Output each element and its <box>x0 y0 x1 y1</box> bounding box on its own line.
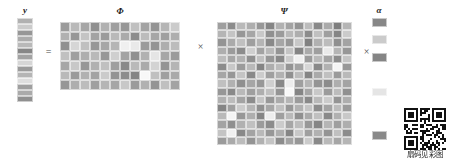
matrix-cell <box>100 41 110 51</box>
matrix-cell <box>342 129 352 137</box>
matrix-cell <box>313 104 323 112</box>
matrix-cell <box>372 105 387 114</box>
matrix-cell <box>60 32 70 42</box>
matrix-cell <box>70 71 80 81</box>
matrix-cell <box>227 79 237 87</box>
matrix-cell <box>275 137 285 145</box>
matrix-cell <box>140 32 150 42</box>
matrix-cell <box>372 79 387 88</box>
matrix-cell <box>120 61 130 71</box>
matrix-cell <box>294 129 304 137</box>
matrix-cell <box>217 79 227 87</box>
matrix-cell <box>120 32 130 42</box>
matrix-cell <box>227 55 237 63</box>
matrix-cell <box>17 96 33 102</box>
matrix-cell <box>256 79 266 87</box>
matrix-cell <box>313 112 323 120</box>
matrix-cell <box>170 22 180 32</box>
matrix-cell <box>275 22 285 30</box>
matrix-cell <box>323 96 333 104</box>
matrix-cell <box>285 112 295 120</box>
matrix-cell <box>217 88 227 96</box>
matrix-cell <box>313 129 323 137</box>
matrix-cell <box>90 61 100 71</box>
matrix-cell <box>246 112 256 120</box>
matrix-cell <box>372 131 387 140</box>
matrix-cell <box>227 88 237 96</box>
matrix-cell <box>294 55 304 63</box>
matrix-cell <box>342 104 352 112</box>
matrix-cell <box>275 112 285 120</box>
matrix-cell <box>323 79 333 87</box>
matrix-phi <box>60 22 180 90</box>
matrix-cell <box>256 112 266 120</box>
matrix-cell <box>323 137 333 145</box>
matrix-cell <box>304 79 314 87</box>
matrix-cell <box>170 41 180 51</box>
matrix-cell <box>342 22 352 30</box>
matrix-cell <box>333 96 343 104</box>
matrix-cell <box>170 51 180 61</box>
matrix-cell <box>294 79 304 87</box>
matrix-cell <box>217 137 227 145</box>
matrix-cell <box>342 63 352 71</box>
matrix-cell <box>285 38 295 46</box>
matrix-cell <box>313 137 323 145</box>
matrix-cell <box>275 129 285 137</box>
matrix-cell <box>342 96 352 104</box>
matrix-cell <box>372 114 387 123</box>
matrix-cell <box>130 51 140 61</box>
qr-code-image[interactable] <box>404 108 446 150</box>
matrix-cell <box>100 61 110 71</box>
matrix-cell <box>70 32 80 42</box>
matrix-cell <box>100 80 110 90</box>
matrix-cell <box>333 79 343 87</box>
matrix-cell <box>140 22 150 32</box>
matrix-cell <box>90 51 100 61</box>
matrix-cell <box>333 30 343 38</box>
matrix-cell <box>80 61 90 71</box>
matrix-cell <box>304 63 314 71</box>
matrix-cell <box>160 71 170 81</box>
matrix-cell <box>246 129 256 137</box>
matrix-cell <box>217 120 227 128</box>
qr-code-block[interactable]: 扇码见彩图 <box>400 108 450 160</box>
matrix-cell <box>256 88 266 96</box>
matrix-cell <box>256 38 266 46</box>
matrix-cell <box>285 79 295 87</box>
matrix-cell <box>285 129 295 137</box>
matrix-cell <box>217 112 227 120</box>
matrix-cell <box>110 71 120 81</box>
matrix-cell <box>304 38 314 46</box>
matrix-cell <box>275 88 285 96</box>
matrix-cell <box>70 41 80 51</box>
matrix-cell <box>265 71 275 79</box>
matrix-cell <box>246 71 256 79</box>
matrix-cell <box>227 96 237 104</box>
matrix-cell <box>313 79 323 87</box>
matrix-cell <box>90 41 100 51</box>
matrix-cell <box>304 112 314 120</box>
matrix-cell <box>294 120 304 128</box>
matrix-cell <box>80 51 90 61</box>
matrix-cell <box>313 30 323 38</box>
matrix-cell <box>227 120 237 128</box>
matrix-cell <box>140 51 150 61</box>
matrix-cell <box>304 104 314 112</box>
matrix-cell <box>170 61 180 71</box>
matrix-cell <box>217 22 227 30</box>
matrix-cell <box>275 55 285 63</box>
matrix-cell <box>236 63 246 71</box>
matrix-cell <box>265 79 275 87</box>
matrix-cell <box>342 137 352 145</box>
matrix-cell <box>246 47 256 55</box>
matrix-cell <box>110 80 120 90</box>
matrix-cell <box>60 61 70 71</box>
matrix-cell <box>313 22 323 30</box>
matrix-cell <box>294 63 304 71</box>
matrix-cell <box>285 30 295 38</box>
matrix-cell <box>304 96 314 104</box>
matrix-cell <box>342 112 352 120</box>
matrix-cell <box>333 63 343 71</box>
matrix-cell <box>333 47 343 55</box>
